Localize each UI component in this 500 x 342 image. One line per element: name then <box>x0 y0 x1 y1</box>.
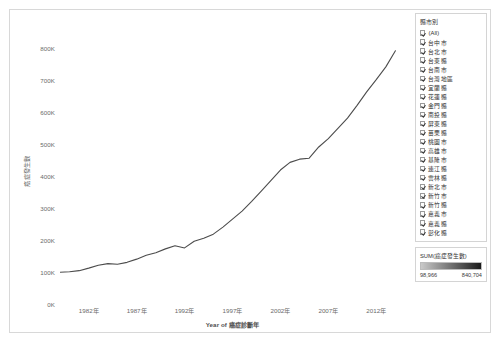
y-axis-tick-label: 100K <box>40 268 55 275</box>
y-axis-tick-label: 700K <box>40 76 55 83</box>
county-filter-item-label: 台南市 <box>428 65 446 74</box>
y-axis-title: 癌症發生數 <box>22 156 31 187</box>
checkbox-checked-icon[interactable] <box>420 85 425 90</box>
line-chart-pane: 癌症發生數 0K100K200K300K400K500K600K700K800K… <box>10 10 415 332</box>
county-filter-item[interactable]: 宜蘭縣 <box>420 83 482 92</box>
county-filter-item-label: 台中市 <box>428 38 446 47</box>
checkbox-checked-icon[interactable] <box>420 175 425 180</box>
y-axis-tick-label: 0K <box>47 301 55 308</box>
county-filter-item-label: 台灣地區 <box>428 74 452 83</box>
gradient-min-value: 98,966 <box>420 272 437 278</box>
plot-area: 0K100K200K300K400K500K600K700K800K <box>60 22 405 304</box>
checkbox-checked-icon[interactable] <box>420 39 425 44</box>
county-filter-item[interactable]: 台灣地區 <box>420 74 482 83</box>
county-filter-item-label: 宜蘭縣 <box>428 83 446 92</box>
y-axis-tick-label: 800K <box>40 44 55 51</box>
county-filter-item[interactable]: 苗栗縣 <box>420 128 482 137</box>
checkbox-checked-icon[interactable] <box>420 166 425 171</box>
county-filter-item-label: 南投縣 <box>428 110 446 119</box>
y-axis-tick-label: 300K <box>40 204 55 211</box>
county-filter-item-label: 新北市 <box>428 182 446 191</box>
county-filter-item-label: (All) <box>428 30 439 36</box>
y-axis-tick-label: 600K <box>40 108 55 115</box>
y-axis-tick-label: 400K <box>40 172 55 179</box>
color-gradient-scale: 98,966 840,704 <box>420 272 482 278</box>
checkbox-checked-icon[interactable] <box>420 229 425 234</box>
county-filter-item-label: 雲林縣 <box>428 173 446 182</box>
county-filter-item-label: 苗栗縣 <box>428 128 446 137</box>
checkbox-checked-icon[interactable] <box>420 76 425 81</box>
county-filter-item[interactable]: 雲林縣 <box>420 173 482 182</box>
county-filter-item[interactable]: 新北市 <box>420 182 482 191</box>
county-filter-item-label: 連江縣 <box>428 164 446 173</box>
county-filter-item[interactable]: 嘉義市 <box>420 209 482 218</box>
county-filter-item-label: 嘉義市 <box>428 209 446 218</box>
color-gradient-bar <box>420 262 482 270</box>
checkbox-checked-icon[interactable] <box>420 67 425 72</box>
gradient-max-value: 840,704 <box>462 272 482 278</box>
county-filter-item-label: 彰化縣 <box>428 228 446 237</box>
series-line-cancer-count <box>60 51 395 272</box>
county-filter-item[interactable]: 基隆市 <box>420 155 482 164</box>
legend-pane: 縣市別 (All)台中市台北市台東縣台南市台灣地區宜蘭縣花蓮縣金門縣南投縣屏東縣… <box>415 13 487 287</box>
county-filter-item-label: 金門縣 <box>428 101 446 110</box>
county-filter-item[interactable]: 南投縣 <box>420 110 482 119</box>
checkbox-checked-icon[interactable] <box>420 139 425 144</box>
checkbox-checked-icon[interactable] <box>420 148 425 153</box>
x-axis-tick-label: 1982年 <box>79 306 99 315</box>
county-filter-item-label: 高雄市 <box>428 146 446 155</box>
county-filter-item-label: 嘉義縣 <box>428 219 446 228</box>
county-filter-card: 縣市別 (All)台中市台北市台東縣台南市台灣地區宜蘭縣花蓮縣金門縣南投縣屏東縣… <box>415 13 487 242</box>
checkbox-checked-icon[interactable] <box>420 211 425 216</box>
county-filter-item-label: 新竹縣 <box>428 200 446 209</box>
county-filter-item[interactable]: 台北市 <box>420 47 482 56</box>
checkbox-checked-icon[interactable] <box>420 202 425 207</box>
county-filter-item[interactable]: 台中市 <box>420 38 482 47</box>
checkbox-checked-icon[interactable] <box>420 112 425 117</box>
checkbox-checked-icon[interactable] <box>420 103 425 108</box>
county-filter-item-label: 台東縣 <box>428 56 446 65</box>
county-filter-item[interactable]: 嘉義縣 <box>420 218 482 227</box>
checkbox-checked-icon[interactable] <box>420 48 425 53</box>
county-filter-item-label: 台北市 <box>428 47 446 56</box>
checkbox-checked-icon[interactable] <box>420 220 425 225</box>
checkbox-checked-icon[interactable] <box>420 157 425 162</box>
x-axis-tick-label: 2007年 <box>318 306 338 315</box>
county-filter-item-label: 屏東縣 <box>428 119 446 128</box>
checkbox-checked-icon[interactable] <box>420 94 425 99</box>
x-axis-tick-label: 2002年 <box>271 306 291 315</box>
county-filter-item[interactable]: 花蓮縣 <box>420 92 482 101</box>
county-filter-item[interactable]: 台東縣 <box>420 56 482 65</box>
x-axis-tick-label: 1997年 <box>223 306 243 315</box>
checkbox-checked-icon[interactable] <box>420 121 425 126</box>
county-filter-item-label: 新竹市 <box>428 191 446 200</box>
county-filter-item[interactable]: 彰化縣 <box>420 228 482 237</box>
county-filter-item[interactable]: 屏東縣 <box>420 119 482 128</box>
checkbox-checked-icon[interactable] <box>420 193 425 198</box>
checkbox-checked-icon[interactable] <box>420 30 425 35</box>
x-axis-title: Year of 癌症診斷年 <box>60 320 405 329</box>
county-filter-title: 縣市別 <box>420 17 482 26</box>
county-filter-item[interactable]: 金門縣 <box>420 101 482 110</box>
x-axis-tick-label: 1992年 <box>175 306 195 315</box>
county-filter-item[interactable]: (All) <box>420 29 482 38</box>
checkbox-checked-icon[interactable] <box>420 184 425 189</box>
county-filter-item-label: 花蓮縣 <box>428 92 446 101</box>
county-filter-item[interactable]: 桃園市 <box>420 137 482 146</box>
county-filter-item-label: 基隆市 <box>428 155 446 164</box>
x-axis-tick-label: 1987年 <box>127 306 147 315</box>
county-filter-list[interactable]: (All)台中市台北市台東縣台南市台灣地區宜蘭縣花蓮縣金門縣南投縣屏東縣苗栗縣桃… <box>420 29 482 237</box>
county-filter-item[interactable]: 連江縣 <box>420 164 482 173</box>
checkbox-checked-icon[interactable] <box>420 57 425 62</box>
x-axis-tick-label: 2012年 <box>366 306 386 315</box>
county-filter-item-label: 桃園市 <box>428 137 446 146</box>
checkbox-checked-icon[interactable] <box>420 130 425 135</box>
county-filter-item[interactable]: 新竹縣 <box>420 200 482 209</box>
dashboard-frame: 癌症發生數 0K100K200K300K400K500K600K700K800K… <box>9 9 491 333</box>
y-axis-tick-label: 500K <box>40 140 55 147</box>
county-filter-item[interactable]: 高雄市 <box>420 146 482 155</box>
line-series-svg <box>60 22 405 304</box>
county-filter-item[interactable]: 新竹市 <box>420 191 482 200</box>
county-filter-item[interactable]: 台南市 <box>420 65 482 74</box>
x-axis-ticks: 1982年1987年1992年1997年2002年2007年2012年 <box>60 306 405 318</box>
